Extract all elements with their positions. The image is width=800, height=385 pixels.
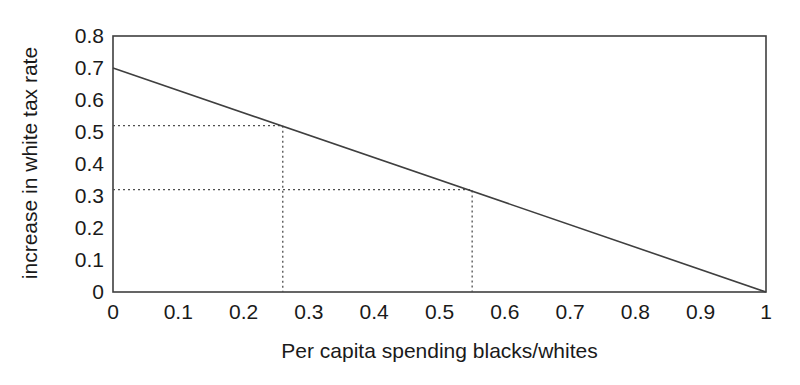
guide-dotted-line (113, 126, 283, 292)
x-tick-label: 0 (107, 300, 119, 323)
y-tick-label: 0.7 (75, 56, 104, 79)
y-tick-label: 0.3 (75, 184, 104, 207)
x-tick-label: 0.9 (686, 300, 715, 323)
y-tick-label: 0.2 (75, 216, 104, 239)
chart-figure: increase in white tax rate 00.10.20.30.4… (0, 0, 800, 385)
x-tick-label: 0.3 (294, 300, 323, 323)
plot-frame (113, 36, 766, 292)
y-tick-label: 0.5 (75, 120, 104, 143)
data-line (113, 68, 766, 292)
y-tick-label: 0.6 (75, 88, 104, 111)
x-tick-label: 1 (760, 300, 772, 323)
guide-dotted-line (113, 190, 472, 292)
y-tick-label: 0.8 (75, 24, 104, 47)
plot-area: 00.10.20.30.40.50.60.70.80.9100.10.20.30… (0, 0, 800, 385)
x-tick-label: 0.1 (164, 300, 193, 323)
x-tick-label: 0.4 (360, 300, 390, 323)
x-tick-label: 0.7 (555, 300, 584, 323)
x-axis-title: Per capita spending blacks/whites (113, 339, 766, 363)
y-tick-label: 0.1 (75, 248, 104, 271)
y-tick-label: 0.4 (75, 152, 105, 175)
y-tick-label: 0 (92, 280, 104, 303)
x-tick-label: 0.8 (621, 300, 650, 323)
x-tick-label: 0.2 (229, 300, 258, 323)
x-tick-label: 0.6 (490, 300, 519, 323)
x-tick-label: 0.5 (425, 300, 454, 323)
